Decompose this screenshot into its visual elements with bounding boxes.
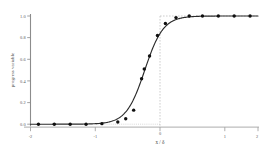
x-tick-label: -2: [29, 134, 33, 139]
x-tick-label: 2: [256, 134, 258, 139]
data-point-marker: [140, 77, 143, 80]
data-point-marker: [116, 120, 119, 123]
sigmoid-progress-variable-chart: 1.0 0.8 0.6 0.4 0.2 0.0 -2 -1 0 1 2 x / …: [0, 0, 262, 148]
data-point-marker: [148, 54, 151, 57]
data-point-marker: [217, 14, 220, 17]
data-point-marker: [164, 22, 167, 25]
data-point-marker: [100, 122, 103, 125]
data-point-marker: [143, 67, 146, 70]
y-tick-label: 0.6: [20, 57, 26, 62]
data-point-marker: [84, 123, 87, 126]
y-tick-label: 0.8: [20, 35, 26, 40]
y-tick-label: 0.0: [20, 122, 26, 127]
data-point-marker: [156, 34, 159, 37]
data-point-marker: [248, 14, 251, 17]
data-point-marker: [37, 123, 40, 126]
x-axis-title: x / δ: [155, 139, 165, 145]
data-point-marker: [132, 108, 135, 111]
data-point-marker: [68, 123, 71, 126]
data-point-marker: [188, 14, 191, 17]
data-point-marker: [174, 16, 177, 19]
chart-figure: 1.0 0.8 0.6 0.4 0.2 0.0 -2 -1 0 1 2 x / …: [0, 0, 262, 148]
y-axis-title: progress variable: [10, 52, 15, 87]
x-tick-label: -1: [93, 134, 97, 139]
data-point-marker: [232, 14, 235, 17]
data-point-marker: [124, 117, 127, 120]
y-tick-label: 0.2: [20, 100, 26, 105]
y-tick-label: 1.0: [20, 14, 26, 19]
data-point-marker: [53, 123, 56, 126]
chart-background: [0, 0, 262, 148]
x-tick-label: 1: [224, 134, 226, 139]
data-point-marker: [201, 14, 204, 17]
y-tick-label: 0.4: [20, 79, 26, 84]
